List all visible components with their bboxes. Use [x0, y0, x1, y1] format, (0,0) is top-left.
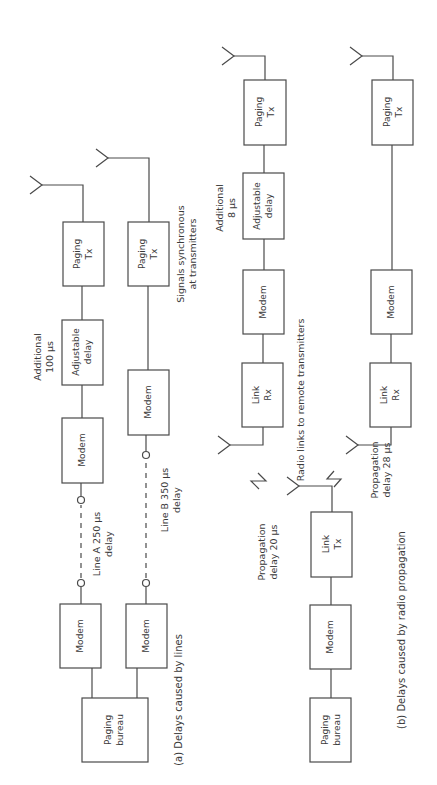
a-sync-note-2: at transmitters: [187, 218, 198, 289]
antenna-icon: [30, 176, 42, 194]
antenna-icon: [96, 149, 108, 167]
a-line-a-label-1: Line A 250 µs: [91, 512, 102, 577]
a-chain-a: Modem Line A 250 µs delay Modem Adjustab…: [30, 176, 114, 668]
b-prop1-label-1: Propagation: [256, 524, 267, 581]
b-link-tx-label-2: Tx: [333, 538, 343, 550]
b-link-tx-label-1: Link: [321, 534, 331, 553]
b-remote-2: Propagation delay 28 µs Link Rx Modem Pa…: [327, 47, 413, 498]
a-modem-local-b-label: Modem: [141, 619, 151, 652]
b-link-tx: [311, 512, 352, 577]
radio-wave-icon: [251, 473, 266, 489]
b-r1-additional-1: Additional: [214, 184, 225, 232]
b-r2-tx-label-1: Paging: [382, 97, 392, 127]
paging-delay-diagram: Paging bureau Modem Line A 250 µs delay …: [0, 0, 437, 785]
b-r2-paging-tx: [372, 80, 413, 145]
a-modem-remote-a-label: Modem: [77, 433, 87, 466]
antenna-icon: [222, 47, 234, 65]
a-modem-local-a-label: Modem: [75, 619, 85, 652]
b-r2-modem-label: Modem: [386, 285, 396, 318]
a-line-a-terminal-remote: [78, 497, 85, 504]
antenna-icon: [346, 436, 358, 454]
a-sync-note-1: Signals synchronous: [175, 205, 186, 302]
b-r1-adj-label-1: Adjustable: [252, 182, 262, 230]
b-prop1-label-2: delay 20 µs: [268, 524, 279, 579]
b-r1-modem-label: Modem: [258, 285, 268, 318]
b-local-chain: Paging bureau Modem Link Tx Propagation …: [251, 473, 352, 762]
a-tx-b-label-1: Paging: [137, 239, 147, 269]
a-additional-label-2: 100 µs: [44, 341, 55, 373]
b-r1-additional-2: 8 µs: [226, 198, 237, 218]
a-line-b-label-2: delay: [171, 487, 182, 513]
a-adj-delay-label-1: Adjustable: [71, 328, 81, 376]
b-r2-link-rx-label-2: Rx: [391, 389, 401, 401]
a-tx-a-label-1: Paging: [72, 239, 82, 269]
b-bureau-label-2: bureau: [332, 714, 342, 746]
b-radio-note: Radio links to remote transmitters: [295, 319, 306, 482]
antenna-icon: [350, 47, 362, 65]
b-r2-tx-label-2: Tx: [394, 106, 404, 118]
a-line-b-terminal-local: [143, 580, 150, 587]
part-b: Paging bureau Modem Link Tx Propagation …: [214, 47, 413, 762]
b-prop2-label-1: Propagation: [369, 442, 380, 499]
a-line-b-label-1: Line B 350 µs: [159, 468, 170, 533]
b-modem-local-label: Modem: [325, 620, 335, 653]
a-bureau-label-1: Paging: [103, 715, 113, 745]
a-additional-label-1: Additional: [32, 333, 43, 381]
antenna-icon: [218, 436, 230, 454]
a-line-b-terminal-remote: [143, 452, 150, 459]
b-remote-1: Link Rx Modem Adjustable delay Additiona…: [214, 47, 286, 454]
a-modem-remote-b-label: Modem: [143, 385, 153, 418]
a-tx-a-label-2: Tx: [84, 248, 94, 260]
a-caption: (a) Delays caused by lines: [173, 634, 184, 766]
b-prop2-label-2: delay 28 µs: [381, 442, 392, 497]
b-paging-bureau: [310, 698, 351, 762]
b-r1-tx-label-2: Tx: [266, 106, 276, 118]
a-chain-b: Modem Line B 350 µs delay Modem Paging T…: [96, 149, 198, 668]
part-a: Paging bureau Modem Line A 250 µs delay …: [30, 149, 198, 766]
a-bureau-label-2: bureau: [115, 714, 125, 746]
radio-wave-icon: [327, 471, 341, 487]
b-caption: (b) Delays caused by radio propagation: [396, 531, 407, 729]
b-r1-link-rx-label-2: Rx: [263, 389, 273, 401]
a-adj-delay-label-2: delay: [83, 339, 93, 364]
a-tx-b-label-2: Tx: [149, 248, 159, 260]
a-paging-bureau: Paging bureau: [82, 698, 148, 762]
b-r2-link-rx-label-1: Link: [379, 385, 389, 404]
b-r1-link-rx-label-1: Link: [251, 385, 261, 404]
b-r1-paging-tx: [244, 80, 286, 145]
a-line-a-terminal-local: [78, 580, 85, 587]
b-r1-adj-label-2: delay: [264, 193, 274, 218]
b-bureau-label-1: Paging: [320, 715, 330, 745]
b-r1-tx-label-1: Paging: [254, 97, 264, 127]
a-line-a-label-2: delay: [103, 531, 114, 557]
